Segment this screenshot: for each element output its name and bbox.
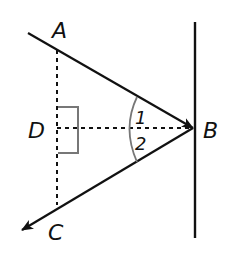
label-b: B <box>203 118 218 143</box>
right-angle-marker <box>58 107 78 153</box>
label-c: C <box>48 220 64 245</box>
label-d: D <box>28 118 45 143</box>
label-angle-2: 2 <box>135 133 146 154</box>
label-a: A <box>50 18 67 43</box>
reflection-diagram: A B C D 1 2 <box>0 0 227 260</box>
label-angle-1: 1 <box>135 107 146 128</box>
incident-ray <box>28 33 193 128</box>
reflected-ray <box>22 128 193 230</box>
